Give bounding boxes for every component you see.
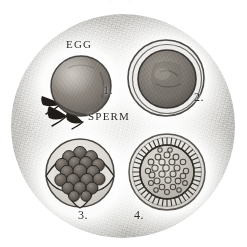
- label-sperm: SPERM: [88, 110, 130, 122]
- label-figure-4: 4.: [134, 208, 144, 223]
- microscopy-plate: · ·: [0, 0, 247, 247]
- specimen-2-ovum-with-zona-pellucida: [126, 38, 208, 120]
- label-figure-2: 2.: [194, 90, 204, 105]
- label-egg: EGG: [66, 38, 92, 50]
- specimen-3-ruptured-capsule: [38, 130, 124, 216]
- vesicular-body-4: [140, 145, 194, 199]
- ovum-body-2: [138, 50, 196, 108]
- ovum-body-1: [51, 56, 111, 116]
- specimen-4-ciliated-vesicular-sphere: [124, 128, 212, 216]
- label-figure-1: 1.: [103, 83, 113, 98]
- cluster-shading: [54, 148, 106, 200]
- label-figure-3: 3.: [78, 208, 88, 223]
- cut-off-caption-remnant: · ·: [0, 0, 247, 5]
